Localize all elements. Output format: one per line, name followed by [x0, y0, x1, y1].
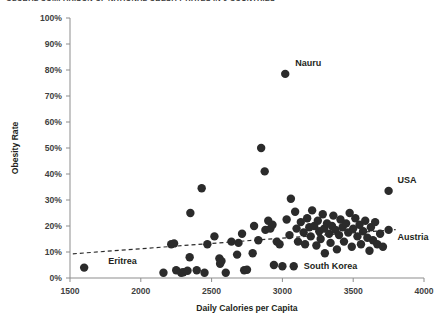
data-points: [80, 70, 393, 277]
chart-title-strip: GLOBAL COMPARISON OF NATIONAL OBESITY RA…: [0, 0, 448, 3]
y-tick-label: 30%: [45, 195, 63, 205]
data-point: [238, 230, 246, 238]
x-tick-label: 2500: [202, 286, 221, 296]
x-axis-title: Daily Calories per Capita: [196, 303, 297, 313]
data-point: [282, 215, 290, 223]
data-point: [357, 240, 365, 248]
y-tick-label: 70%: [45, 91, 63, 101]
y-tick-label: 60%: [45, 117, 63, 127]
plot-area: 0%10%20%30%40%50%60%70%80%90%100% 150020…: [0, 0, 448, 321]
data-point: [250, 222, 258, 230]
data-point: [210, 232, 218, 240]
data-point: [308, 206, 316, 214]
y-axis-ticks: 0%10%20%30%40%50%60%70%80%90%100%: [40, 13, 70, 283]
point-label-south-korea: South Korea: [304, 261, 358, 271]
data-point: [384, 187, 392, 195]
y-tick-label: 20%: [45, 221, 63, 231]
data-point: [319, 210, 327, 218]
point-label-usa: USA: [398, 175, 418, 185]
data-point: [270, 261, 278, 269]
data-point: [217, 257, 225, 265]
data-point: [268, 221, 276, 229]
data-point: [261, 167, 269, 175]
point-label-eritrea: Eritrea: [108, 256, 138, 266]
y-tick-label: 40%: [45, 169, 63, 179]
data-point: [222, 269, 230, 277]
data-point: [342, 219, 350, 227]
data-point: [257, 144, 265, 152]
data-point: [379, 243, 387, 251]
data-point: [80, 263, 88, 271]
data-point: [281, 70, 289, 78]
chart-title: GLOBAL COMPARISON OF NATIONAL OBESITY RA…: [6, 0, 275, 3]
data-point: [361, 217, 369, 225]
data-point: [159, 269, 167, 277]
data-point: [278, 262, 286, 270]
obesity-scatter-chart: GLOBAL COMPARISON OF NATIONAL OBESITY RA…: [0, 0, 448, 321]
x-tick-label: 1500: [60, 286, 79, 296]
point-label-nauru: Nauru: [295, 58, 321, 68]
y-tick-label: 50%: [45, 143, 63, 153]
y-tick-label: 90%: [45, 39, 63, 49]
data-point: [248, 249, 256, 257]
point-label-austria: Austria: [398, 232, 430, 242]
y-tick-label: 100%: [40, 13, 62, 23]
data-point: [303, 214, 311, 222]
x-axis-ticks: 150020002500300035004000: [60, 278, 433, 296]
data-point: [329, 211, 337, 219]
data-point: [197, 184, 205, 192]
x-tick-label: 3000: [273, 286, 292, 296]
data-point: [186, 209, 194, 217]
x-tick-label: 3500: [344, 286, 363, 296]
data-point: [200, 269, 208, 277]
data-point: [234, 239, 242, 247]
y-tick-label: 10%: [45, 247, 63, 257]
data-point: [301, 240, 309, 248]
data-point: [371, 218, 379, 226]
data-point: [287, 195, 295, 203]
data-point: [185, 253, 193, 261]
data-point: [333, 245, 341, 253]
x-tick-label: 4000: [414, 286, 433, 296]
data-point: [183, 267, 191, 275]
data-point: [321, 249, 329, 257]
data-point: [193, 266, 201, 274]
data-point: [291, 208, 299, 216]
data-point: [348, 243, 356, 251]
data-point: [290, 262, 298, 270]
y-axis-title: Obesity Rate: [10, 122, 20, 175]
data-point: [340, 237, 348, 245]
data-point: [233, 250, 241, 258]
data-point: [365, 247, 373, 255]
y-tick-label: 0%: [50, 273, 63, 283]
data-point: [326, 239, 334, 247]
y-tick-label: 80%: [45, 65, 63, 75]
data-point: [243, 265, 251, 273]
x-tick-label: 2000: [131, 286, 150, 296]
data-point: [275, 240, 283, 248]
